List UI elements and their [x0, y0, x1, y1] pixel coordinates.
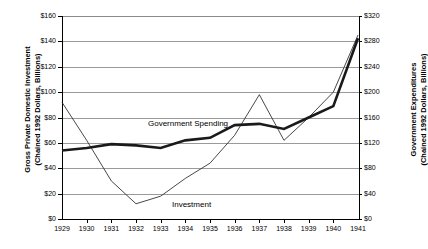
gridline	[63, 41, 359, 42]
right-axis-tick-label: $240	[364, 63, 380, 71]
gridline	[63, 143, 359, 144]
plot-area	[62, 16, 360, 220]
left-axis-tick-label: $0	[0, 215, 56, 223]
series-annotation-investment: Investment	[172, 200, 211, 209]
right-axis-tick-label: $80	[364, 164, 376, 172]
series-annotation-government-spending: Government Spending	[148, 119, 228, 128]
x-axis-tick-mark	[136, 219, 137, 223]
x-axis-tick-mark	[284, 219, 285, 223]
x-axis-tick-mark	[87, 219, 88, 223]
x-axis-tick-mark	[161, 219, 162, 223]
right-axis-title-line2: (Chained 1992 Dollars, Billions)	[418, 10, 428, 210]
left-axis-tick-label: $20	[0, 190, 56, 198]
left-axis-tick-label: $100	[0, 88, 56, 96]
x-axis-tick-mark	[111, 219, 112, 223]
right-axis-title-line1: Government Expenditures	[409, 10, 419, 210]
left-axis-tick-label: $120	[0, 63, 56, 71]
x-axis-tick-mark	[210, 219, 211, 223]
gridline	[63, 16, 359, 17]
right-axis-tick-label: $200	[364, 88, 380, 96]
x-axis-tick-mark	[235, 219, 236, 223]
right-axis-title: Government Expenditures (Chained 1992 Do…	[409, 10, 428, 210]
left-axis-tick-label: $160	[0, 12, 56, 20]
right-axis-tick-label: $160	[364, 114, 380, 122]
right-axis-tick-label: $120	[364, 139, 380, 147]
x-axis-tick-mark	[259, 219, 260, 223]
gridline	[63, 168, 359, 169]
x-axis-tick-label: 1941	[338, 224, 378, 233]
gridline	[63, 92, 359, 93]
right-axis-tick-label: $280	[364, 37, 380, 45]
right-axis-tick-label: $0	[364, 215, 372, 223]
right-axis-tick-label: $320	[364, 12, 380, 20]
x-axis-tick-mark	[309, 219, 310, 223]
left-axis-tick-label: $60	[0, 139, 56, 147]
left-axis-tick-label: $140	[0, 37, 56, 45]
x-axis-tick-mark	[333, 219, 334, 223]
left-axis-tick-label: $80	[0, 114, 56, 122]
x-axis-tick-mark	[185, 219, 186, 223]
gridline	[63, 194, 359, 195]
right-axis-tick-label: $40	[364, 190, 376, 198]
gridline	[63, 67, 359, 68]
left-axis-tick-label: $40	[0, 164, 56, 172]
